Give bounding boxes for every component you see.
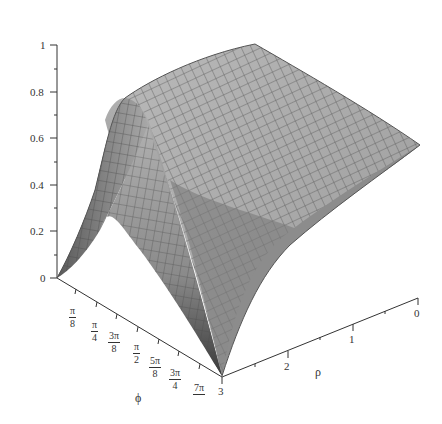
rho-tick-0: 0	[414, 308, 420, 319]
phi-axis-label: ϕ	[135, 392, 141, 404]
z-tick-0.2: 0.2	[30, 226, 44, 237]
z-tick-1: 1	[40, 40, 46, 51]
phi-tick-pi-4: π4	[91, 320, 98, 343]
z-tick-0: 0	[40, 273, 46, 284]
phi-tick-5pi-8: 5π8	[149, 356, 161, 379]
phi-tick-pi-2: π2	[133, 342, 140, 365]
z-tick-0.8: 0.8	[30, 87, 44, 98]
z-tick-0.4: 0.4	[30, 180, 44, 191]
z-tick-0.6: 0.6	[30, 133, 44, 144]
phi-tick-7pi-8: 7π	[193, 383, 205, 396]
z-axis	[50, 45, 57, 278]
surface-mesh	[57, 44, 420, 376]
phi-tick-pi-8: π8	[69, 306, 76, 329]
rho-tick-3: 3	[218, 386, 224, 397]
surface-plot	[0, 0, 442, 424]
phi-tick-3pi-8: 3π8	[108, 331, 120, 354]
rho-axis-label: ρ	[315, 366, 321, 378]
rho-tick-2: 2	[284, 361, 290, 372]
rho-tick-1: 1	[349, 334, 355, 345]
phi-tick-3pi-4: 3π4	[169, 368, 181, 391]
